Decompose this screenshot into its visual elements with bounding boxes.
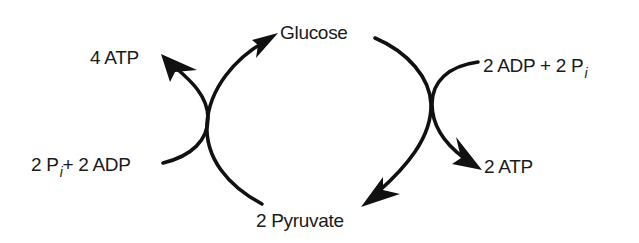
label-left-input: 2 Pi+ 2 ADP	[31, 155, 131, 174]
label-pyruvate: 2 Pyruvate	[256, 211, 344, 230]
label-2-atp: 2 ATP	[484, 157, 533, 176]
glycolysis-diagram: Glucose 4 ATP 2 ADP + 2 Pi 2 Pi+ 2 ADP 2…	[0, 0, 639, 243]
label-right-input: 2 ADP + 2 Pi	[483, 56, 587, 75]
right-input-subscript: i	[584, 65, 587, 81]
label-4-atp: 4 ATP	[90, 48, 139, 67]
right-input-prefix: 2 ADP + 2 P	[483, 55, 583, 76]
left-input-prefix: 2 P	[31, 154, 59, 175]
arrow-pyruvate-to-glucose	[207, 42, 264, 204]
arrow-adp-to-4atp	[163, 68, 208, 163]
left-input-suffix: + 2 ADP	[62, 154, 130, 175]
arrow-glucose-to-pyruvate	[375, 38, 431, 192]
label-glucose: Glucose	[280, 23, 348, 42]
arrow-adp-to-2atp	[432, 62, 478, 158]
arrowhead-4atp-icon	[161, 54, 197, 82]
arrowhead-pyruvate-icon	[361, 177, 400, 207]
